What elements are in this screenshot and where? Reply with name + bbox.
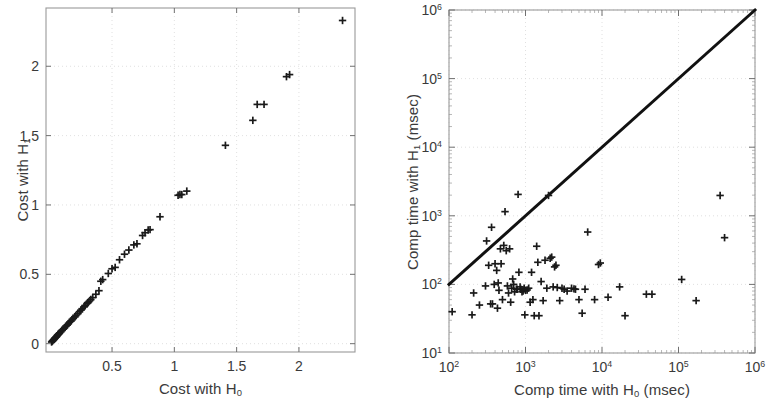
data-point: [552, 262, 559, 269]
data-point: [584, 228, 591, 235]
data-point: [249, 117, 256, 124]
data-point: [548, 253, 555, 260]
data-point: [535, 312, 542, 319]
data-point: [514, 191, 521, 198]
y-axis-label: Cost with H1: [14, 138, 31, 221]
data-point: [509, 275, 516, 282]
data-point: [591, 296, 598, 303]
y-tick-label: 0.5: [20, 266, 39, 282]
data-point: [539, 297, 546, 304]
data-point: [521, 311, 528, 318]
data-point: [121, 251, 128, 258]
x-axis-label: Comp time with H0 (msec): [514, 381, 690, 398]
data-point: [534, 259, 541, 266]
data-point: [721, 234, 728, 241]
data-point: [572, 286, 579, 293]
data-point: [476, 301, 483, 308]
data-point: [604, 294, 611, 301]
data-point: [482, 282, 489, 289]
x-axis-label: Cost with H0: [159, 380, 242, 397]
data-point: [222, 142, 229, 149]
data-point: [485, 262, 492, 269]
data-point: [156, 213, 163, 220]
data-point: [468, 311, 475, 318]
data-point: [499, 296, 506, 303]
data-point: [470, 289, 477, 296]
data-point: [339, 17, 346, 24]
y-tick-label: 2: [31, 58, 39, 74]
data-point: [515, 269, 522, 276]
data-point: [678, 276, 685, 283]
x-tick-label: 106: [745, 359, 765, 375]
x-tick-label: 105: [668, 359, 688, 375]
y-tick-label: 106: [422, 2, 442, 18]
data-point: [260, 101, 267, 108]
y-axis-label: Comp time with H1 (msec): [404, 93, 421, 269]
x-tick-label: 0.5: [102, 358, 121, 374]
cost-scatter-plot: Cost with H0 Cost with H1 0.511.5200.511…: [0, 0, 386, 407]
data-point: [495, 287, 502, 294]
y-tick-label: 101: [422, 345, 442, 361]
data-point: [528, 269, 535, 276]
x-tick-label: 103: [515, 359, 535, 375]
x-tick-label: 2: [295, 358, 303, 374]
y-tick-label: 1.5: [20, 128, 39, 144]
data-point: [253, 101, 260, 108]
x-tick-label: 102: [439, 359, 459, 375]
data-point: [448, 308, 455, 315]
scatter-figure: Cost with H0 Cost with H1 0.511.5200.511…: [0, 0, 771, 407]
data-point: [543, 285, 550, 292]
y-tick-label: 102: [422, 276, 442, 292]
data-point: [692, 297, 699, 304]
data-point: [116, 256, 123, 263]
data-point: [183, 187, 190, 194]
y-tick-label: 105: [422, 71, 442, 87]
y-tick-label: 0: [31, 336, 39, 352]
data-point: [494, 304, 501, 311]
comp-time-plot-canvas: [386, 0, 771, 407]
x-tick-label: 1.5: [227, 358, 246, 374]
data-point: [556, 297, 563, 304]
data-point: [537, 278, 544, 285]
x-tick-label: 1: [170, 358, 178, 374]
data-point: [648, 290, 655, 297]
data-point: [488, 224, 495, 231]
data-point: [575, 296, 582, 303]
data-point: [493, 267, 500, 274]
data-point: [497, 260, 504, 267]
data-point: [578, 310, 585, 317]
comp-time-scatter-plot: Comp time with H0 (msec) Comp time with …: [386, 0, 771, 407]
data-point: [491, 281, 498, 288]
y-tick-label: 104: [422, 139, 442, 155]
data-point: [501, 208, 508, 215]
y-tick-label: 103: [422, 208, 442, 224]
data-point: [716, 192, 723, 199]
data-points: [48, 17, 346, 346]
x-tick-label: 104: [592, 359, 612, 375]
axes-frame: [449, 10, 755, 353]
y-tick-label: 1: [31, 197, 39, 213]
data-point: [551, 263, 558, 270]
data-point: [125, 246, 132, 253]
data-point: [105, 270, 112, 277]
cost-plot-canvas: [0, 0, 386, 407]
data-point: [581, 286, 588, 293]
data-point: [621, 312, 628, 319]
data-point: [507, 299, 514, 306]
data-point: [495, 279, 502, 286]
data-point: [533, 243, 540, 250]
data-point: [483, 237, 490, 244]
data-points: [448, 191, 728, 320]
